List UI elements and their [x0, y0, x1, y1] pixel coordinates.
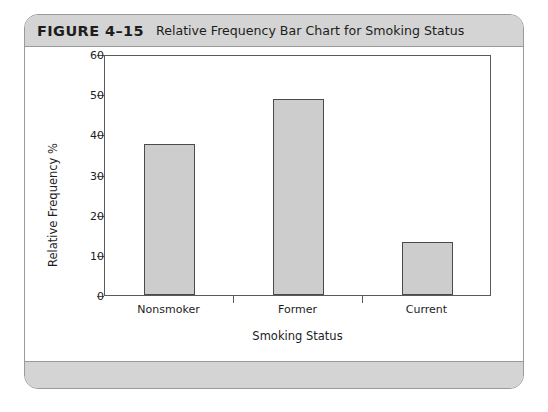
y-axis-tick-label: 10	[64, 249, 104, 262]
y-axis-tick-label: 50	[64, 89, 104, 102]
y-axis-title: Relative Frequency %	[46, 105, 60, 305]
x-axis-tick-label: Current	[406, 303, 447, 316]
x-axis-title: Smoking Status	[104, 329, 491, 343]
bar	[144, 144, 195, 295]
bar	[273, 99, 324, 295]
bar	[402, 242, 453, 295]
y-axis: Relative Frequency % 0102030405060	[25, 47, 104, 362]
x-axis-tick	[233, 296, 234, 303]
figure-number-label: FIGURE 4–15	[37, 23, 144, 39]
figure-footer	[25, 361, 523, 388]
bars-layer	[105, 56, 490, 295]
chart-region: Relative Frequency % 0102030405060 Smoki…	[25, 47, 523, 362]
y-axis-tick-label: 60	[64, 49, 104, 62]
y-axis-tick-label: 40	[64, 129, 104, 142]
x-axis-tick-label: Nonsmoker	[137, 303, 199, 316]
y-axis-tick-label: 0	[64, 290, 104, 303]
plot-area	[104, 55, 491, 296]
y-axis-tick-label: 20	[64, 209, 104, 222]
figure-caption-label: Relative Frequency Bar Chart for Smoking…	[156, 23, 464, 38]
figure-header: FIGURE 4–15 Relative Frequency Bar Chart…	[25, 15, 523, 47]
figure-card: FIGURE 4–15 Relative Frequency Bar Chart…	[24, 14, 524, 389]
x-axis-tick-label: Former	[278, 303, 317, 316]
x-axis-tick	[362, 296, 363, 303]
y-axis-tick-label: 30	[64, 169, 104, 182]
